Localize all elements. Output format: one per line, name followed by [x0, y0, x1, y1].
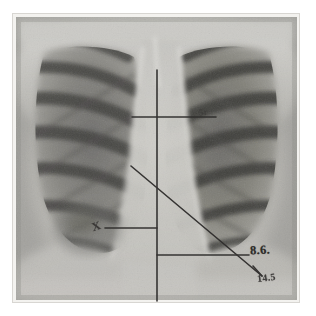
measurement-label-upper: 8.6. [250, 242, 271, 258]
image-caption: Chest radiograph with hand-drawn cardiot… [0, 0, 1, 1]
measurement-label-lower: 14.5 [256, 271, 276, 284]
faint-handwritten-note: 5r [199, 107, 209, 118]
radiograph-page: 8.6. 14.5 5r X Chest radiograph with han… [0, 0, 316, 316]
